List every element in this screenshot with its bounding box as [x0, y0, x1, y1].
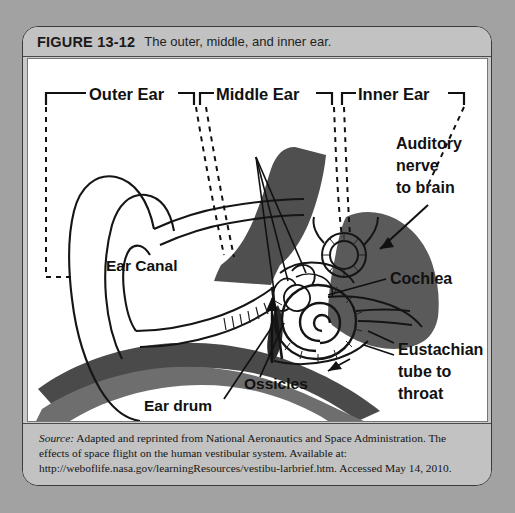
label-ear-drum: Ear drum — [144, 397, 212, 414]
label-auditory-nerve-line3: to brain — [396, 179, 455, 196]
label-auditory-nerve-line2: nerve — [396, 157, 439, 174]
label-ear-canal: Ear Canal — [106, 257, 178, 274]
label-eustachian-line2: tube to — [398, 363, 452, 380]
figure-container: FIGURE 13-12 The outer, middle, and inne… — [22, 26, 492, 486]
figure-number: FIGURE 13-12 — [37, 34, 135, 50]
label-outer-ear: Outer Ear — [89, 85, 165, 103]
label-inner-ear: Inner Ear — [358, 85, 430, 103]
ear-anatomy-illustration: Outer Ear Middle Ear Inner Ear — [27, 58, 488, 422]
figure-caption-bar: FIGURE 13-12 The outer, middle, and inne… — [23, 27, 491, 57]
source-text: Source: Adapted and reprinted from Natio… — [39, 431, 475, 476]
label-middle-ear: Middle Ear — [216, 85, 300, 103]
figure-source-bar: Source: Adapted and reprinted from Natio… — [23, 423, 491, 485]
label-ossicles: Ossicles — [244, 375, 308, 392]
page-background: FIGURE 13-12 The outer, middle, and inne… — [0, 0, 515, 513]
label-auditory-nerve-line1: Auditory — [396, 135, 462, 152]
label-eustachian-line1: Eustachian — [398, 341, 483, 358]
label-eustachian-line3: throat — [398, 385, 444, 402]
eustachian-flow-arrowhead — [328, 361, 342, 371]
figure-title: The outer, middle, and inner ear. — [144, 34, 331, 49]
source-body: Adapted and reprinted from National Aero… — [39, 432, 452, 474]
source-label: Source: — [39, 432, 74, 444]
label-cochlea: Cochlea — [390, 270, 452, 287]
label-group-ear-canal: Ear Canal — [106, 257, 178, 274]
